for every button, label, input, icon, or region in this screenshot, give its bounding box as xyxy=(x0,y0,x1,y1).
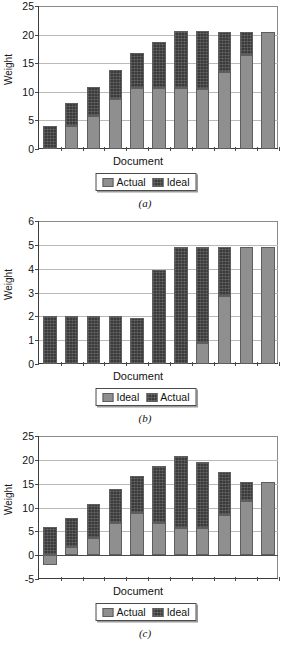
x-axis-tick-mark xyxy=(214,147,215,151)
x-axis-tick-mark xyxy=(257,362,258,366)
bar-segment-ideal xyxy=(87,504,101,538)
bar-segment-actual xyxy=(218,72,232,149)
bar-segment-actual xyxy=(240,501,254,555)
bar-segment-ideal xyxy=(152,466,166,523)
x-axis-tick-mark xyxy=(104,362,105,366)
bar-segment-ideal xyxy=(218,296,232,364)
bar-segment-ideal xyxy=(65,518,79,547)
plot-area xyxy=(38,436,278,579)
legend-swatch-icon xyxy=(146,393,157,402)
panel-caption: (c) xyxy=(0,627,290,639)
bar-segment-actual xyxy=(130,88,144,149)
bar xyxy=(152,42,166,149)
bar-segment-actual xyxy=(174,88,188,149)
x-axis-tick-mark xyxy=(235,147,236,151)
y-axis-tick-label: 5 xyxy=(28,526,34,537)
bar xyxy=(65,316,79,364)
bar-segment-actual xyxy=(109,523,123,555)
y-axis-tick-labels: 0510152025 xyxy=(8,6,34,149)
bar xyxy=(240,247,254,364)
bar-segment-actual xyxy=(152,270,166,364)
bar xyxy=(174,247,188,364)
bar xyxy=(43,126,57,149)
y-axis-tick-label: 25 xyxy=(22,431,34,442)
x-axis-tick-mark xyxy=(214,577,215,581)
y-axis-tick-label: 0 xyxy=(28,550,34,561)
x-axis-title: Document xyxy=(18,370,258,382)
chart-legend: ActualIdeal xyxy=(96,603,197,621)
bar-segment-actual xyxy=(196,89,210,149)
y-axis-tick-label: 15 xyxy=(22,58,34,69)
x-axis-tick-mark xyxy=(257,147,258,151)
legend-label: Ideal xyxy=(167,606,190,618)
panel-caption: (b) xyxy=(0,412,290,424)
bar-segment-ideal xyxy=(196,31,210,89)
y-axis-tick-mark xyxy=(35,579,39,580)
x-axis-tick-mark xyxy=(192,577,193,581)
x-axis-tick-mark xyxy=(126,362,127,366)
x-axis-tick-mark xyxy=(61,577,62,581)
bar-segment-ideal xyxy=(87,87,101,116)
bar xyxy=(65,103,79,149)
bar xyxy=(218,32,232,149)
x-axis-tick-mark xyxy=(279,362,280,366)
bar-segment-actual xyxy=(261,482,275,555)
bar-segment-actual xyxy=(240,55,254,149)
x-axis-tick-mark xyxy=(170,577,171,581)
figure-page: Weight0510152025DocumentActualIdeal(a)We… xyxy=(0,0,290,650)
bar-segment-actual xyxy=(65,126,79,149)
legend-label: Ideal xyxy=(117,391,140,403)
y-axis-tick-label: 10 xyxy=(22,502,34,513)
chart-panel-b: Weight0123456DocumentIdealActual(b) xyxy=(0,221,290,436)
x-axis-tick-mark xyxy=(279,577,280,581)
bar-segment-ideal xyxy=(43,527,57,556)
legend-swatch-icon xyxy=(103,608,114,617)
y-axis-tick-label: 0 xyxy=(28,144,34,155)
bar-segment-ideal xyxy=(218,32,232,73)
bar-segment-actual xyxy=(87,316,101,364)
bar-segment-ideal xyxy=(174,31,188,88)
bar xyxy=(152,270,166,364)
panel-caption: (a) xyxy=(0,197,290,209)
chart-legend: ActualIdeal xyxy=(96,173,197,191)
x-axis-title: Document xyxy=(18,585,258,597)
legend-item-actual: Actual xyxy=(103,176,146,188)
bar xyxy=(65,518,79,555)
y-axis-tick-label: 4 xyxy=(28,263,34,274)
bar-segment-actual xyxy=(174,247,188,364)
bar xyxy=(261,482,275,555)
bar-segment-ideal xyxy=(65,103,79,126)
x-axis-tick-mark xyxy=(126,577,127,581)
y-axis-tick-label: 0 xyxy=(28,359,34,370)
bar-segment-actual xyxy=(152,523,166,555)
y-axis-tick-label: 10 xyxy=(22,87,34,98)
x-axis-tick-mark xyxy=(170,147,171,151)
bar-segment-actual xyxy=(109,99,123,149)
bar xyxy=(130,318,144,364)
y-axis-tick-mark xyxy=(35,364,39,365)
chart-legend: IdealActual xyxy=(96,388,197,406)
legend-item-actual: Actual xyxy=(146,391,189,403)
bar-segment-ideal xyxy=(240,247,254,364)
plot-frame-right xyxy=(277,6,278,148)
bar-segment-actual xyxy=(109,316,123,364)
legend-item-ideal: Ideal xyxy=(153,176,190,188)
x-axis-tick-mark xyxy=(170,362,171,366)
bar-segment-actual xyxy=(152,88,166,149)
bar xyxy=(218,472,232,555)
bar-segment-ideal xyxy=(240,32,254,55)
plot-frame-top xyxy=(39,436,278,437)
x-axis-tick-mark xyxy=(104,147,105,151)
x-axis-tick-mark xyxy=(279,147,280,151)
y-axis-tick-label: 5 xyxy=(28,240,34,251)
x-axis-tick-mark xyxy=(235,362,236,366)
y-axis-tick-label: 20 xyxy=(22,29,34,40)
y-axis-tick-label: 3 xyxy=(28,287,34,298)
bar xyxy=(240,482,254,555)
bar-segment-actual xyxy=(174,528,188,555)
x-axis-tick-mark xyxy=(148,147,149,151)
y-axis-tick-label: 1 xyxy=(28,335,34,346)
bar-segment-actual xyxy=(130,513,144,555)
bar-segment-actual xyxy=(87,538,101,555)
x-axis-tick-mark xyxy=(192,362,193,366)
